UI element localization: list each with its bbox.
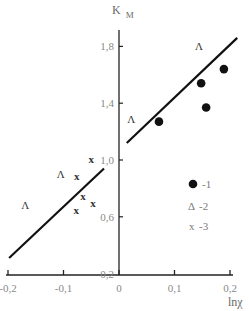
legend-item-1: -1	[189, 178, 211, 190]
data-point-x: x	[74, 204, 80, 216]
data-point-x: x	[89, 153, 95, 165]
x-mark-icon: x	[189, 220, 195, 232]
data-point-triangle: Λ	[127, 113, 135, 125]
data-point-triangle: Λ	[57, 168, 65, 180]
y-axis-title-sub: M	[126, 10, 134, 20]
y-tick-label: 1,4	[100, 97, 114, 109]
data-point-x: x	[90, 197, 96, 209]
x-axis-title: lnχ	[228, 295, 243, 309]
x-tick-label: -0,2	[0, 282, 17, 294]
data-point-circle	[220, 65, 229, 74]
data-markers: ΛΛΛΛxxxxx	[21, 40, 228, 215]
y-tick-label: 1,0	[100, 154, 114, 166]
data-point-triangle: Λ	[195, 40, 203, 52]
data-point-x: x	[74, 170, 80, 182]
y-axis-title: K M	[112, 3, 134, 20]
filled-circle-icon	[189, 180, 198, 189]
triangle-icon: Δ	[188, 200, 195, 212]
y-axis-title-main: K	[112, 3, 121, 17]
legend-item-2: Δ -2	[188, 200, 208, 212]
x-tick-label: 0,2	[223, 282, 237, 294]
x-tick-label: 0,1	[168, 282, 182, 294]
x-tick-label: 0	[116, 282, 122, 294]
legend-item-3: x -3	[189, 220, 209, 232]
legend-label-2: -2	[199, 200, 208, 212]
x-ticks: -0,2-0,100,10,2	[0, 270, 237, 294]
data-point-x: x	[80, 190, 86, 202]
y-tick-label: 0,2	[100, 268, 114, 280]
legend-label-3: -3	[199, 220, 209, 232]
data-point-circle	[202, 103, 211, 112]
fit-lower	[9, 169, 104, 258]
data-point-triangle: Λ	[21, 199, 29, 211]
legend-label-1: -1	[202, 178, 211, 190]
legend: -1 Δ -2 x -3	[188, 178, 211, 232]
y-tick-label: 1,8	[100, 40, 114, 52]
fit-upper	[127, 38, 237, 143]
y-tick-label: 0,6	[100, 211, 114, 223]
data-point-circle	[155, 117, 164, 126]
chart: -0,2-0,100,10,2 0,20,61,01,41,8 K M lnχ …	[0, 0, 249, 311]
data-point-circle	[197, 79, 206, 88]
x-tick-label: -0,1	[55, 282, 72, 294]
